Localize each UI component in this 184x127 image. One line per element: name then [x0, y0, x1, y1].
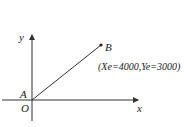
- end-coordinates-label: (Xe=4000,Ye=3000): [98, 62, 180, 72]
- y-axis-label: y: [19, 32, 24, 43]
- origin-label: O: [21, 103, 29, 114]
- point-b-dot: [99, 43, 102, 46]
- point-a-label: A: [20, 89, 27, 100]
- point-b-label: B: [105, 42, 112, 53]
- x-axis-label: x: [137, 103, 142, 114]
- line-segment-ob: [32, 45, 101, 100]
